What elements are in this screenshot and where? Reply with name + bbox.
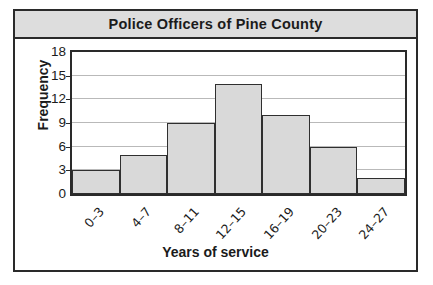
x-tick-slot: 8–11 <box>167 198 215 246</box>
x-axis-title: Years of service <box>15 244 416 260</box>
x-tick-label: 8–11 <box>171 204 202 236</box>
y-tick-label: 9 <box>40 116 66 130</box>
x-axis-tick-labels: 0–34–78–1112–1516–1920–2324–27 <box>70 198 407 246</box>
x-tick-label: 0–3 <box>81 204 107 231</box>
x-tick-slot: 12–15 <box>215 198 263 246</box>
bar <box>310 147 358 194</box>
y-tick-label: 0 <box>40 187 66 201</box>
chart-figure: Police Officers of Pine County Frequency… <box>13 9 418 272</box>
y-tick-label: 18 <box>40 45 66 59</box>
bar <box>357 178 405 194</box>
chart-body: Frequency 1815129630 0–34–78–1112–1516–1… <box>15 39 416 270</box>
x-tick-label: 4–7 <box>129 204 155 231</box>
bar <box>262 115 310 194</box>
x-tick-label: 16–19 <box>261 204 298 242</box>
bar <box>120 155 168 194</box>
x-tick-slot: 4–7 <box>120 198 168 246</box>
x-tick-slot: 24–27 <box>357 198 405 246</box>
bar <box>72 170 120 194</box>
x-tick-label: 20–23 <box>308 204 345 242</box>
x-tick-slot: 20–23 <box>310 198 358 246</box>
bar <box>167 123 215 194</box>
y-axis-tick-labels: 1815129630 <box>34 50 66 196</box>
bar <box>215 84 263 194</box>
y-tick-label: 15 <box>40 69 66 83</box>
page-title: Police Officers of Pine County <box>109 16 323 32</box>
x-tick-slot: 16–19 <box>262 198 310 246</box>
plot-inner <box>72 52 405 194</box>
x-tick-label: 24–27 <box>356 204 393 242</box>
y-tick-label: 6 <box>40 140 66 154</box>
y-tick-label: 12 <box>40 93 66 107</box>
plot-area <box>70 50 407 196</box>
chart-title-band: Police Officers of Pine County <box>15 11 416 39</box>
x-tick-label: 12–15 <box>213 204 250 242</box>
y-tick-label: 3 <box>40 164 66 178</box>
gridline-15 <box>72 75 405 76</box>
x-tick-slot: 0–3 <box>72 198 120 246</box>
